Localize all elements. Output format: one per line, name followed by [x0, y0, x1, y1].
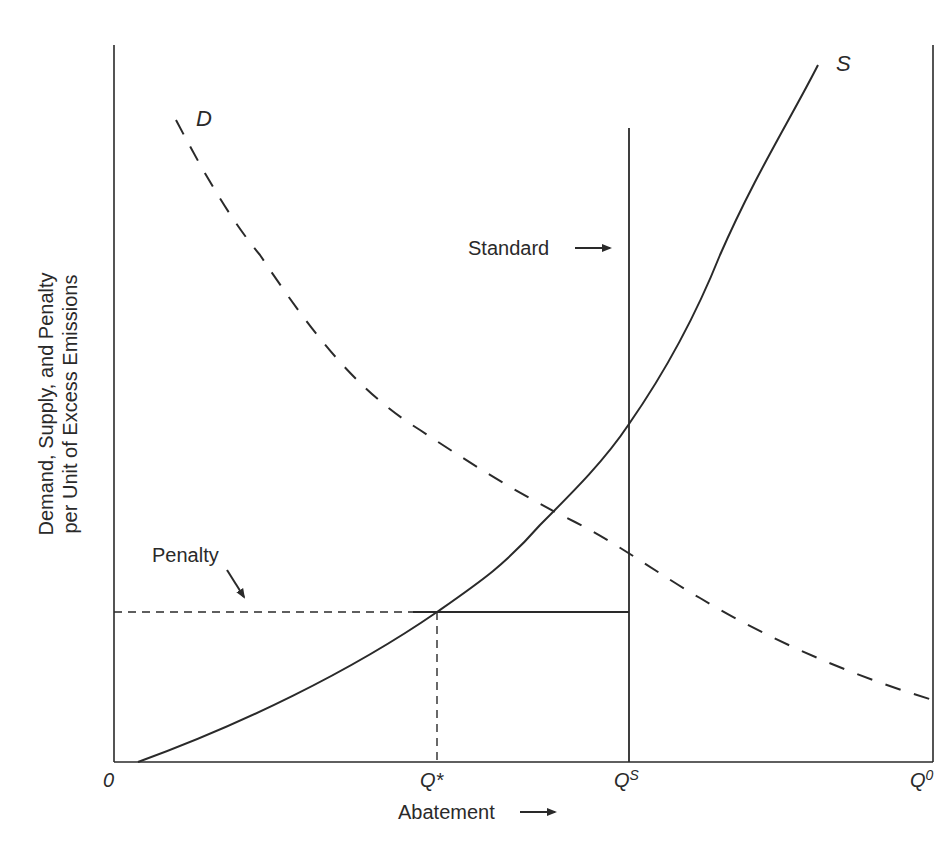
x-tick-qstar: Q* — [420, 770, 443, 790]
x-tick-qs: QS — [614, 770, 639, 790]
demand-curve-label: D — [196, 108, 212, 130]
chart-figure — [0, 0, 948, 856]
standard-label: Standard — [468, 238, 549, 258]
y-axis-label-line1: Demand, Supply, and Penalty — [34, 194, 58, 614]
x-tick-q0-sup: 0 — [926, 767, 934, 783]
supply-curve-label: S — [836, 53, 851, 75]
y-axis-label-line2: per Unit of Excess Emissions — [58, 194, 82, 614]
x-tick-q0-base: Q — [910, 769, 926, 791]
x-tick-0: 0 — [103, 770, 114, 790]
x-tick-qs-sup: S — [630, 767, 639, 783]
penalty-arrow-icon — [227, 570, 244, 597]
x-tick-q0: Q0 — [910, 770, 933, 790]
y-axis-label: Demand, Supply, and Penalty per Unit of … — [34, 194, 82, 614]
x-axis-label: Abatement — [398, 802, 495, 822]
x-tick-qs-base: Q — [614, 769, 630, 791]
supply-curve — [138, 65, 818, 762]
penalty-label: Penalty — [152, 545, 219, 565]
